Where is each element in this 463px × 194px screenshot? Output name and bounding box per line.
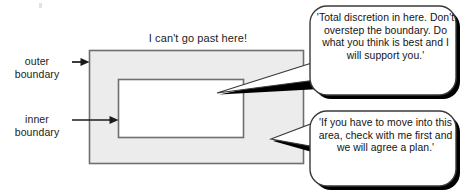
diagram-canvas: outer boundary inner boundary I can't go… — [0, 0, 463, 194]
check-first-bubble-label: 'If you have to move into this area, che… — [316, 117, 455, 155]
inner-boundary-rect — [119, 80, 244, 138]
outer-arrow — [72, 58, 90, 66]
discretion-bubble-label: 'Total discretion in here. Don't overste… — [316, 12, 455, 62]
top-caption: I can't go past here! — [108, 32, 288, 45]
outer-boundary-label: outer boundary — [4, 55, 70, 80]
inner-boundary-label: inner boundary — [4, 113, 70, 138]
